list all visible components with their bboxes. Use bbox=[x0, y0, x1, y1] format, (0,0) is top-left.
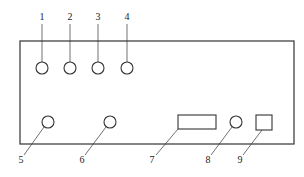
knob-icon bbox=[64, 62, 76, 74]
leader-line bbox=[85, 127, 106, 155]
switch-icon bbox=[256, 115, 272, 130]
knob-icon bbox=[42, 116, 54, 128]
leader-line bbox=[243, 130, 262, 155]
component-2: 2 bbox=[64, 11, 76, 74]
component-4: 4 bbox=[121, 11, 133, 74]
component-9: 9 bbox=[238, 115, 273, 165]
component-label: 1 bbox=[40, 11, 45, 22]
knob-icon bbox=[104, 116, 116, 128]
component-6: 6 bbox=[80, 116, 117, 165]
component-label: 3 bbox=[96, 11, 101, 22]
component-label: 5 bbox=[19, 154, 24, 165]
panel-outline bbox=[20, 41, 294, 144]
knob-icon bbox=[121, 62, 133, 74]
component-3: 3 bbox=[92, 11, 104, 74]
component-label: 9 bbox=[238, 154, 243, 165]
leader-line bbox=[211, 127, 232, 155]
component-5: 5 bbox=[19, 116, 55, 165]
components-group: 123456789 bbox=[19, 11, 273, 165]
component-1: 1 bbox=[36, 11, 48, 74]
knob-icon bbox=[92, 62, 104, 74]
component-label: 6 bbox=[80, 154, 85, 165]
component-label: 8 bbox=[206, 154, 211, 165]
component-label: 4 bbox=[125, 11, 130, 22]
component-label: 2 bbox=[68, 11, 73, 22]
leader-line bbox=[156, 129, 178, 155]
display-window bbox=[178, 115, 216, 129]
knob-icon bbox=[230, 116, 242, 128]
front-panel-diagram: 123456789 bbox=[0, 0, 304, 177]
leader-line bbox=[24, 127, 44, 155]
knob-icon bbox=[36, 62, 48, 74]
component-label: 7 bbox=[150, 154, 155, 165]
